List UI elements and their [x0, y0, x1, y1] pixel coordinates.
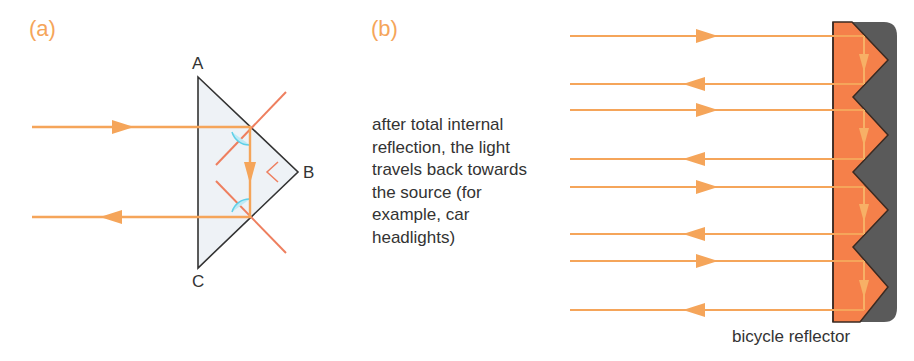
prism-diagram	[32, 77, 298, 268]
light-rays	[570, 36, 864, 310]
panel-label-a: (a)	[29, 16, 56, 42]
vertex-label-b: B	[303, 163, 314, 183]
vertex-label-a: A	[192, 54, 203, 74]
ray-arrow-icons	[683, 29, 718, 317]
arrow-right-icon	[112, 120, 134, 134]
reflector-caption: bicycle reflector	[732, 327, 850, 347]
bicycle-reflector-diagram	[570, 22, 897, 322]
panel-label-b: (b)	[371, 16, 398, 42]
arrow-left-icon	[100, 210, 122, 224]
explanation-caption: after total internal reflection, the lig…	[372, 114, 562, 249]
vertex-label-c: C	[192, 272, 204, 292]
